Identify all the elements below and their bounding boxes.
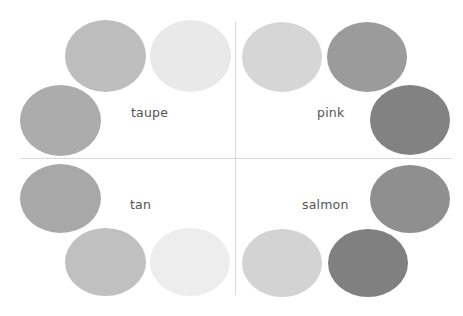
color-swatch[interactable] [242, 22, 322, 92]
color-swatch[interactable] [65, 228, 146, 296]
color-name-label: pink [317, 105, 344, 120]
vertical-divider [235, 22, 236, 295]
color-swatch[interactable] [327, 22, 407, 92]
color-swatch[interactable] [242, 229, 322, 297]
color-swatch[interactable] [20, 164, 101, 233]
horizontal-divider [20, 158, 452, 159]
color-swatch[interactable] [328, 229, 408, 297]
color-name-label: salmon [302, 197, 349, 212]
color-name-label: tan [130, 197, 151, 212]
color-grid: taupe pink tan salmon [0, 0, 463, 316]
color-swatch[interactable] [65, 20, 146, 92]
color-swatch[interactable] [20, 85, 101, 156]
color-swatch[interactable] [370, 165, 450, 233]
color-name-label: taupe [131, 105, 168, 120]
color-swatch[interactable] [150, 20, 231, 92]
color-swatch[interactable] [150, 228, 230, 296]
color-swatch[interactable] [370, 85, 450, 155]
